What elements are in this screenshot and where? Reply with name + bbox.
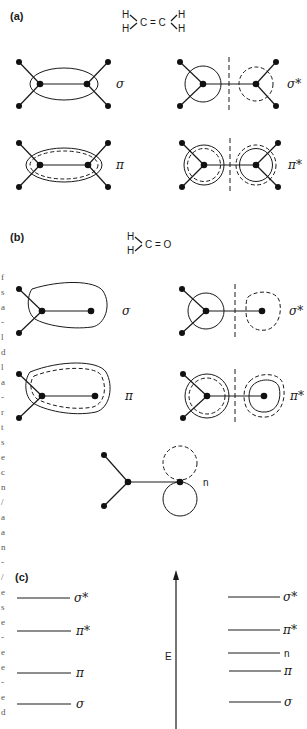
margin-fragment: f (1, 272, 4, 282)
level-label: π (283, 664, 293, 678)
formaldehyde-sigma-orbital: σ (16, 282, 131, 336)
panel-b-label: (b) (10, 231, 24, 243)
orbital-label: σ* (287, 77, 301, 91)
orbital-lobe (163, 482, 197, 516)
margin-fragment: r (1, 407, 4, 417)
margin-fragment: l (1, 362, 4, 372)
formula-bond (130, 23, 137, 29)
margin-fragment: s (1, 602, 5, 612)
panel-c-energy-levels: (c) E σ* π* π σ σ* π* n π (15, 570, 297, 729)
arrow-up-icon (173, 570, 179, 580)
level-label: π* (75, 624, 90, 638)
level-label: σ* (74, 591, 88, 605)
formaldehyde-formula: H H C = O (127, 231, 172, 256)
margin-fragment: d (1, 347, 6, 357)
formaldehyde-sigma-star-orbital: σ* (179, 284, 303, 340)
ethylene-sigma-star-orbital: σ* (177, 57, 301, 111)
margin-fragment: a (1, 512, 5, 522)
level-label: π* (282, 623, 297, 637)
margin-fragment: - (1, 392, 4, 402)
orbital-diagram-figure: f s a - l d l a - r t s e c n / a a n - … (0, 0, 307, 729)
ethylene-pi-star-orbital: π* (179, 138, 302, 194)
level-label: n (284, 648, 290, 659)
formula-h: H (127, 245, 134, 256)
margin-fragment: a (1, 527, 5, 537)
margin-fragment: e (1, 692, 5, 702)
margin-fragment: a (1, 302, 5, 312)
orbital-label: π (124, 389, 134, 403)
formula-h: H (178, 23, 185, 34)
orbital-label: π (115, 158, 125, 172)
panel-a-label: (a) (10, 10, 24, 22)
c-atom (84, 81, 91, 88)
panel-a-ethylene: (a) H H C = C H H σ (10, 9, 302, 194)
level-label: σ (76, 697, 85, 711)
formaldehyde-n-orbital: n (101, 446, 209, 516)
energy-axis-label: E (165, 651, 172, 662)
orbital-label: σ (116, 77, 125, 91)
margin-fragment: / (1, 497, 4, 507)
orbital-label: n (203, 477, 209, 488)
ethylene-formula: H H C = C H H (122, 9, 185, 34)
margin-fragment: c (1, 467, 5, 477)
margin-fragment: e (1, 452, 5, 462)
margin-text-column: f s a - l d l a - r t s e c n / a a n - … (1, 272, 6, 717)
margin-fragment: e (1, 647, 5, 657)
margin-fragment: d (1, 707, 6, 717)
h-atom (105, 59, 111, 65)
h-atom (16, 103, 22, 109)
orbital-label: π* (289, 389, 304, 403)
ethylene-energy-levels: σ* π* π σ (17, 591, 90, 711)
margin-fragment: e (1, 662, 5, 672)
margin-fragment: n (1, 482, 6, 492)
margin-fragment: s (1, 287, 5, 297)
orbital-label: π* (287, 158, 302, 172)
formaldehyde-pi-star-orbital: π* (180, 369, 304, 424)
level-label: π (75, 666, 85, 680)
formula-bond (130, 15, 137, 21)
margin-fragment: s (1, 437, 5, 447)
level-label: σ* (283, 590, 297, 604)
formula-co: C = O (145, 239, 172, 250)
panel-b-formaldehyde: (b) H H C = O σ (10, 231, 304, 516)
margin-fragment: e (1, 617, 5, 627)
formaldehyde-energy-levels: σ* π* n π σ (228, 590, 297, 709)
formula-bond (171, 15, 177, 21)
formula-h: H (178, 9, 185, 20)
margin-fragment: t (1, 422, 4, 432)
formula-h: H (122, 9, 129, 20)
level-label: σ (284, 695, 293, 709)
orbital-label: σ (122, 304, 131, 318)
margin-fragment: - (1, 557, 4, 567)
h-atom (105, 103, 111, 109)
margin-fragment: e (1, 587, 5, 597)
panel-c-label: (c) (15, 571, 29, 583)
c-atom (37, 81, 44, 88)
margin-fragment: / (1, 572, 4, 582)
margin-fragment: - (1, 632, 4, 642)
margin-fragment: - (1, 677, 4, 687)
margin-fragment: a (1, 377, 5, 387)
h-atom (16, 59, 22, 65)
orbital-lobe-negative (163, 446, 197, 480)
energy-axis: E (165, 570, 179, 729)
margin-fragment: l (1, 332, 4, 342)
margin-fragment: n (1, 542, 6, 552)
formula-h: H (122, 23, 129, 34)
orbital-label: σ* (289, 304, 303, 318)
formula-h: H (127, 231, 134, 242)
orbital-lobe (28, 282, 107, 327)
ethylene-sigma-orbital: σ (16, 59, 125, 109)
formaldehyde-pi-orbital: π (16, 363, 134, 421)
formula-cc: C = C (140, 17, 166, 28)
ethylene-pi-orbital: π (16, 140, 125, 190)
margin-fragment: - (1, 317, 4, 327)
formula-bond (171, 23, 177, 29)
